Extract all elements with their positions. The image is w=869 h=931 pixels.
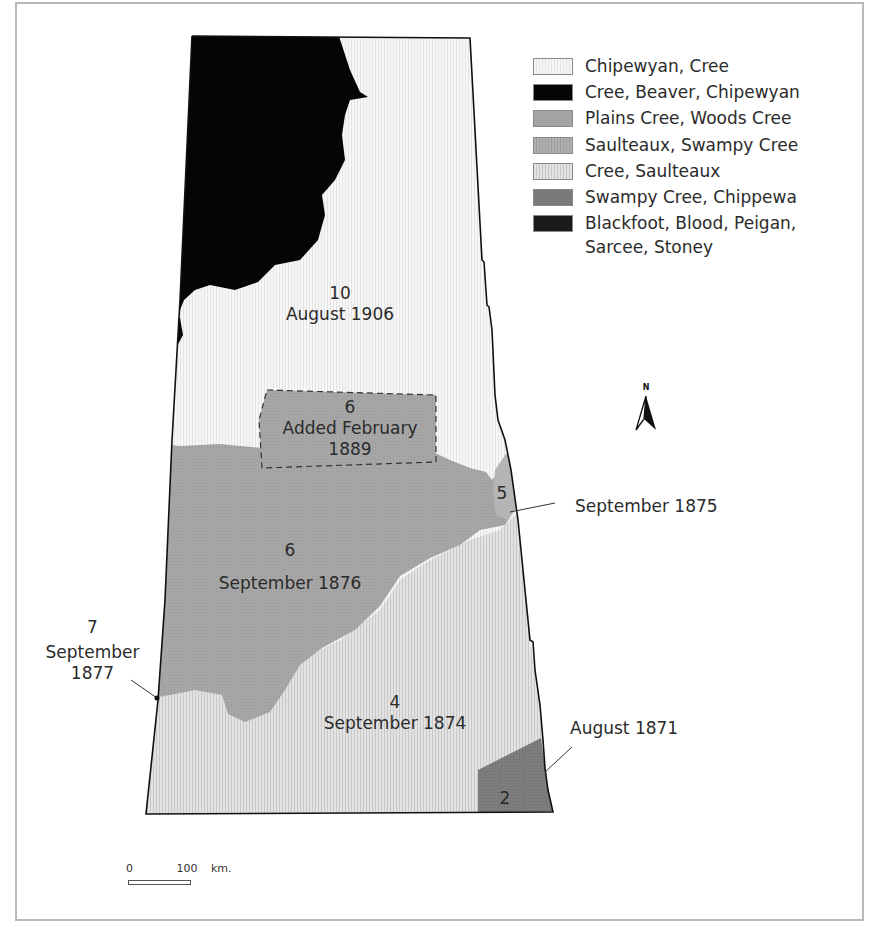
legend-item: Plains Cree, Woods Cree	[533, 106, 800, 132]
region-treaty-7-marker	[155, 696, 160, 701]
legend: Chipewyan, Cree Cree, Beaver, Chipewyan …	[533, 53, 800, 258]
scale-bar	[128, 880, 191, 885]
legend-swatch-saulteaux-swampy-cree	[533, 137, 573, 154]
legend-swatch-blackfoot-blood-peigan	[533, 215, 573, 232]
legend-swatch-cree-saulteaux	[533, 163, 573, 180]
label-treaty-2-number: 2	[495, 788, 515, 809]
label-treaty-6: 6 September 1876	[205, 540, 375, 594]
label-treaty-6-added: 6 Added February 1889	[262, 397, 438, 460]
legend-swatch-swampy-cree-chippewa	[533, 189, 573, 206]
scale-label: 0 100 km.	[126, 862, 232, 875]
legend-item: Cree, Beaver, Chipewyan	[533, 79, 800, 105]
legend-swatch-chipewyan-cree	[533, 58, 573, 75]
legend-item: Swampy Cree, Chippewa	[533, 184, 800, 210]
legend-item: Saulteaux, Swampy Cree	[533, 132, 800, 158]
label-treaty-5-number: 5	[493, 483, 511, 504]
label-treaty-10: 10 August 1906	[270, 283, 410, 325]
north-arrow: N	[631, 383, 661, 436]
legend-swatch-cree-beaver-chipewyan	[533, 84, 573, 101]
legend-item: Cree, Saulteaux	[533, 158, 800, 184]
legend-item: Chipewyan, Cree	[533, 53, 800, 79]
north-arrow-icon	[631, 392, 661, 432]
leader-line-treaty-2	[545, 747, 572, 772]
label-treaty-5-callout: September 1875	[575, 496, 718, 517]
legend-item: Blackfoot, Blood, Peigan,	[533, 211, 800, 237]
label-treaty-7: 7 September 1877	[35, 617, 150, 684]
label-treaty-4: 4 September 1874	[315, 692, 475, 734]
legend-swatch-plains-woods-cree	[533, 110, 573, 127]
label-treaty-2-callout: August 1871	[570, 718, 678, 739]
